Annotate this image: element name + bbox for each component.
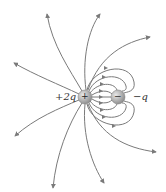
field-line-left-down bbox=[15, 100, 79, 136]
negative-charge-sign: − bbox=[114, 92, 122, 101]
loop-top-inner bbox=[90, 84, 117, 93]
loop-mid-bottom bbox=[92, 99, 112, 103]
negative-charge-label: −q bbox=[133, 92, 148, 102]
inner-field-lines bbox=[87, 69, 134, 125]
positive-charge-label: +2q bbox=[55, 92, 76, 102]
field-line-right-bottom bbox=[88, 104, 156, 152]
field-line-left bbox=[14, 63, 79, 94]
field-line-down bbox=[53, 103, 82, 188]
loop-bottom-inner bbox=[90, 101, 117, 110]
field-line-up-left bbox=[47, 14, 82, 91]
field-line-right-top bbox=[88, 37, 150, 90]
loop-top-outer bbox=[87, 69, 134, 93]
loop-bottom-outer bbox=[87, 101, 134, 125]
loop-mid-top bbox=[92, 91, 112, 95]
positive-charge-sign: + bbox=[81, 92, 89, 101]
